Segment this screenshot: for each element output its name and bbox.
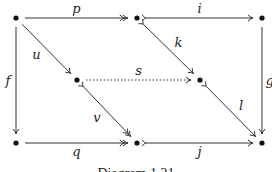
diagram-caption: Diagram 1.21	[98, 166, 175, 172]
commutative-diagram: pifguksvlqj Diagram 1.21	[0, 0, 272, 172]
arrow-k-tail	[138, 19, 143, 24]
node-h	[259, 140, 264, 145]
label-g: g	[266, 73, 272, 88]
label-s: s	[135, 63, 142, 78]
label-i: i	[197, 1, 201, 16]
arrow-l-tail	[201, 81, 206, 86]
label-u: u	[32, 47, 40, 62]
node-g	[134, 140, 139, 145]
arrow-v	[78, 82, 131, 137]
node-e	[197, 77, 202, 82]
arrow-k	[138, 19, 193, 73]
node-d	[74, 77, 79, 82]
node-b	[134, 15, 139, 20]
label-f: f	[5, 73, 13, 88]
arrow-j-tail	[142, 140, 146, 146]
arrow-l	[201, 81, 255, 136]
arrow-u-shaft	[22, 24, 70, 73]
label-v: v	[93, 110, 101, 125]
labels-layer: pifguksvlqj	[5, 1, 272, 159]
label-k: k	[175, 35, 183, 50]
arrow-k-shaft	[143, 24, 193, 73]
arrow-f	[13, 27, 19, 134]
arrow-l-shaft	[206, 86, 255, 136]
arrow-g	[259, 27, 265, 134]
node-f	[13, 140, 18, 145]
arrow-v-tail	[78, 82, 83, 87]
arrow-v-shaft	[83, 87, 131, 137]
label-q: q	[72, 144, 80, 159]
edges-layer	[13, 15, 265, 146]
arrow-u	[22, 24, 70, 73]
node-a	[13, 15, 18, 20]
label-p: p	[72, 1, 81, 16]
node-c	[259, 15, 264, 20]
label-j: j	[194, 144, 201, 159]
label-l: l	[239, 98, 243, 113]
